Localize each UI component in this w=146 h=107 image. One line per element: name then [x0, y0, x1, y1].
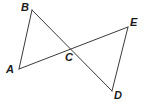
vertex-label-C: C	[65, 52, 73, 63]
segment-AE	[19, 27, 128, 69]
vertex-label-E: E	[130, 17, 137, 28]
geometry-figure: A B C D E	[0, 0, 146, 107]
geometry-diagram-canvas	[0, 0, 146, 107]
segment-AB	[19, 10, 32, 69]
vertex-label-A: A	[6, 64, 14, 75]
segment-DE	[112, 27, 128, 91]
vertex-label-B: B	[21, 2, 29, 13]
vertex-label-D: D	[114, 90, 122, 101]
